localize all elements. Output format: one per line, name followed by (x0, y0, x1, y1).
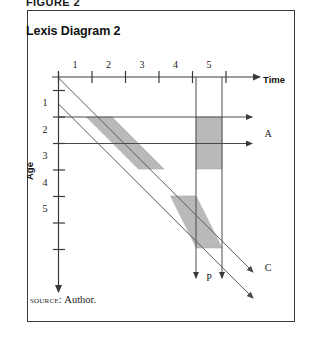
time-axis-label: Time (263, 74, 285, 85)
source-label: source: (30, 294, 62, 305)
time-tick-label-4: 4 (169, 59, 183, 70)
cohort-band-label: C (262, 262, 274, 273)
time-tick-label-5: 5 (202, 59, 216, 70)
age-tick-label-5: 5 (38, 203, 52, 214)
age-axis-label: Age (24, 162, 35, 180)
time-tick-label-1: 1 (68, 59, 82, 70)
time-tick-label-2: 2 (102, 59, 116, 70)
source-note: source: Author. (30, 294, 96, 305)
age-tick-label-2: 2 (38, 124, 52, 135)
source-value: Author. (64, 294, 96, 305)
period-band-label: P (203, 272, 215, 283)
lexis-diagram (0, 0, 312, 338)
figure-page: FIGURE 2 Lexis Diagram 2 (0, 0, 312, 338)
age-tick-label-4: 4 (38, 177, 52, 188)
time-tick-label-3: 3 (135, 59, 149, 70)
cohort-line-lower (59, 104, 254, 298)
cohort-line-upper (59, 78, 254, 272)
age-tick-label-3: 3 (38, 150, 52, 161)
age-tick-label-1: 1 (38, 97, 52, 108)
age-band-label: A (262, 128, 274, 139)
